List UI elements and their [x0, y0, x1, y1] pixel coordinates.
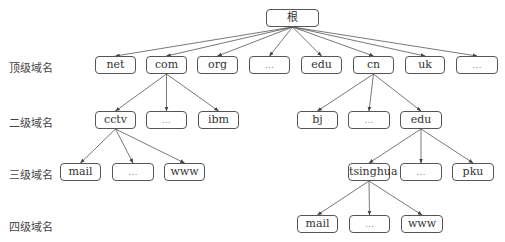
node-tsinghua-mail: mail — [297, 215, 338, 233]
node-cctv-ellipsis: … — [112, 163, 154, 181]
node-com-ellipsis: … — [146, 111, 187, 129]
node-cctv-mail: mail — [60, 163, 101, 181]
node-cctv-www: www — [164, 163, 205, 181]
node-uk: uk — [405, 56, 445, 74]
node-tld-ellipsis: … — [249, 56, 290, 74]
level-label-third: 三级域名 — [9, 166, 53, 182]
level-label-fourth: 四级域名 — [9, 218, 53, 234]
node-tsinghua-ellipsis: … — [349, 215, 390, 233]
node-cctv: cctv — [95, 111, 136, 129]
node-tsinghua: tsinghua — [348, 163, 390, 181]
node-edu: edu — [301, 56, 342, 74]
level-label-tld: 顶级域名 — [9, 59, 53, 75]
node-cn: cn — [353, 56, 394, 74]
node-bj: bj — [297, 111, 338, 129]
node-com: com — [146, 56, 187, 74]
level-label-second: 二级域名 — [9, 114, 53, 130]
node-tld-ellipsis-2: … — [456, 56, 498, 74]
node-org: org — [197, 56, 238, 74]
node-tsinghua-www: www — [401, 215, 443, 233]
node-net: net — [95, 56, 136, 74]
node-root: 根 — [266, 9, 319, 27]
node-edu-ellipsis: … — [400, 163, 442, 181]
node-ibm: ibm — [198, 111, 239, 129]
node-pku: pku — [452, 163, 494, 181]
node-cn-edu: edu — [400, 111, 442, 129]
node-cn-ellipsis: … — [348, 111, 390, 129]
